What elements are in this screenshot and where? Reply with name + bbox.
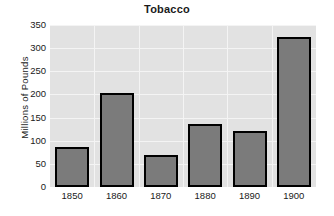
y-axis-tick-label: 100 [2,136,46,146]
gridline-vertical [227,25,228,187]
y-axis-tick-label: 200 [2,89,46,99]
gridline-vertical [139,25,140,187]
bar [144,155,178,187]
plot-area [50,25,316,187]
bar [55,147,89,187]
y-axis-tick-label: 350 [2,20,46,30]
bar [100,93,134,187]
x-axis-tick-label: 1870 [150,190,171,201]
gridline-vertical [183,25,184,187]
x-axis-tick-label: 1860 [106,190,127,201]
bar [277,37,311,187]
x-axis-tick-labels: 185018601870188018901900 [50,190,316,206]
y-axis-tick-label: 300 [2,43,46,53]
y-axis-tick-label: 50 [2,159,46,169]
bar-chart: Tobacco Millions of Pounds 3503002502001… [0,0,334,216]
chart-title: Tobacco [0,3,334,15]
gridline-vertical [272,25,273,187]
x-axis-tick-label: 1900 [283,190,304,201]
x-axis-tick-label: 1850 [62,190,83,201]
gridline-vertical [94,25,95,187]
y-axis-tick-labels: 350300250200150100500 [0,25,46,187]
bar [188,124,222,187]
y-axis-tick-label: 150 [2,113,46,123]
y-axis-tick-label: 0 [2,182,46,192]
x-axis-tick-label: 1890 [239,190,260,201]
bar [233,131,267,187]
y-axis-tick-label: 250 [2,66,46,76]
x-axis-tick-label: 1880 [195,190,216,201]
